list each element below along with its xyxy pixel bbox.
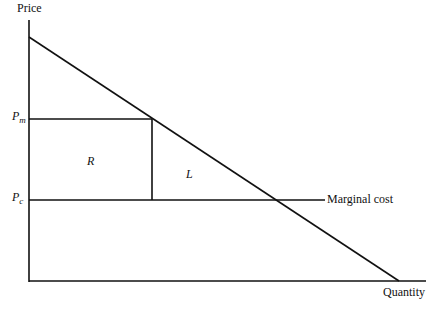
x-axis-label: Quantity — [383, 285, 425, 300]
region-r-label: R — [87, 154, 94, 169]
demand-curve — [29, 37, 399, 281]
y-axis-label: Price — [17, 1, 42, 16]
pm-label: Pm — [12, 109, 26, 125]
pc-label: Pc — [12, 190, 23, 206]
pc-sub: c — [19, 196, 23, 206]
region-l-label: L — [186, 167, 193, 182]
pm-sub: m — [19, 115, 26, 125]
marginal-cost-label: Marginal cost — [327, 192, 393, 207]
diagram-canvas — [0, 0, 433, 309]
